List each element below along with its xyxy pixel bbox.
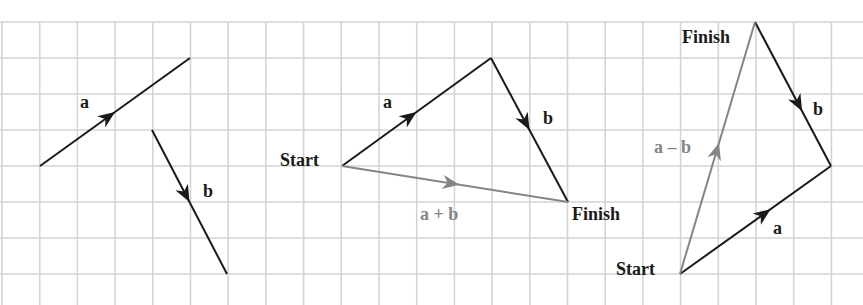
arrowhead-icon xyxy=(515,112,529,130)
vector-label-b: b xyxy=(813,99,823,119)
arrowhead-icon xyxy=(399,112,417,128)
start-label: Start xyxy=(616,259,655,279)
vector-diagram: ababa + bStartFinishaba – bStartFinish xyxy=(0,0,863,305)
vector-label-a: a xyxy=(383,92,392,112)
panel-vector-sum: aba + bStartFinish xyxy=(280,58,620,224)
finish-label: Finish xyxy=(682,27,730,47)
vector-a-minus-b: a – b xyxy=(654,22,755,274)
vector-label-b: b xyxy=(543,108,553,128)
vector-label-a: a xyxy=(773,218,782,238)
vector-label-a-minus-b: a – b xyxy=(654,137,691,157)
panel-vector-difference: aba – bStartFinish xyxy=(616,22,831,279)
arrowhead-icon xyxy=(97,112,115,128)
vector-label-a-plus-b: a + b xyxy=(420,204,458,224)
finish-label: Finish xyxy=(572,204,620,224)
vector-label-b: b xyxy=(203,181,213,201)
vector-label-a: a xyxy=(80,92,89,112)
start-label: Start xyxy=(280,150,319,170)
graph-paper-grid xyxy=(0,22,863,305)
vector-panels: ababa + bStartFinishaba – bStartFinish xyxy=(40,22,831,279)
